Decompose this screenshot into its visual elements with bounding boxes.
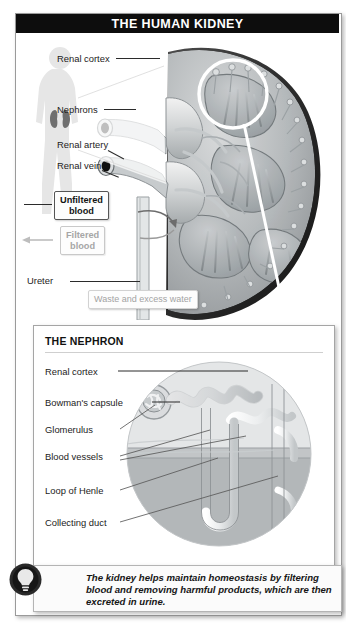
- leader-nephrons: [104, 109, 136, 110]
- figure-root: THE HUMAN KIDNEY: [0, 0, 346, 627]
- kidney-illustration-stage: Renal cortex Nephrons Renal artery Renal…: [16, 34, 339, 320]
- caption-bar: The kidney helps maintain homeostasis by…: [33, 565, 342, 612]
- filtered-blood-arrow: [20, 234, 54, 246]
- callout-waste-label: Waste and excess water: [94, 294, 192, 304]
- callout-waste-water: Waste and excess water: [88, 290, 198, 309]
- label-bowmans-capsule: Bowman's capsule: [45, 397, 123, 408]
- label-collecting-duct: Collecting duct: [45, 517, 107, 528]
- callout-unfiltered-line2: blood: [69, 206, 94, 216]
- callout-unfiltered-line1: Unfiltered: [60, 195, 103, 205]
- callout-filtered-line2: blood: [70, 241, 95, 251]
- label-ureter: Ureter: [27, 275, 53, 286]
- label-renal-artery: Renal artery: [57, 139, 108, 150]
- leader-renal-cortex: [116, 58, 160, 59]
- label-glomerulus: Glomerulus: [45, 424, 93, 435]
- nephron-panel: THE NEPHRON: [33, 325, 335, 569]
- callout-unfiltered-blood: Unfiltered blood: [54, 191, 109, 220]
- blood-flow-arrows: [134, 194, 184, 246]
- page-title: THE HUMAN KIDNEY: [111, 17, 243, 31]
- callout-filtered-blood: Filtered blood: [60, 226, 105, 255]
- lightbulb-icon: [8, 562, 43, 597]
- caption-text: The kidney helps maintain homeostasis by…: [86, 572, 334, 608]
- leader-ureter: [70, 281, 140, 282]
- label-renal-vein: Renal vein: [57, 160, 101, 171]
- label-nephron-renal-cortex: Renal cortex: [45, 366, 98, 377]
- callout-filtered-line1: Filtered: [66, 230, 99, 240]
- label-loop-of-henle: Loop of Henle: [45, 485, 103, 496]
- label-nephrons: Nephrons: [57, 104, 98, 115]
- figure-title-bar: THE HUMAN KIDNEY: [16, 14, 339, 33]
- label-blood-vessels: Blood vessels: [45, 451, 103, 462]
- leader-unfiltered: [24, 204, 52, 205]
- nephron-artwork: [34, 326, 334, 568]
- label-renal-cortex: Renal cortex: [57, 53, 110, 64]
